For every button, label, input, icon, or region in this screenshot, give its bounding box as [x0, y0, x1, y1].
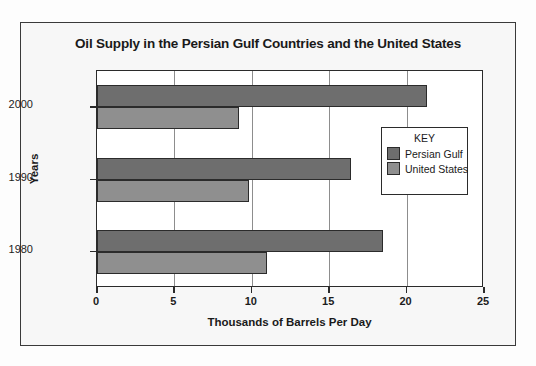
legend-swatch-icon-persian-gulf [387, 147, 400, 160]
y-axis-title: Years [28, 129, 40, 209]
x-tick-mark [96, 287, 98, 293]
x-axis-title: Thousands of Barrels Per Day [96, 316, 483, 328]
chart-legend: KEY Persian Gulf United States [381, 127, 468, 195]
y-tick-label-2000: 2000 [9, 98, 33, 110]
bar-1990-united-states [97, 180, 249, 202]
x-tick-mark [483, 287, 485, 293]
y-tick-mark [90, 179, 96, 181]
x-tick-mark [173, 287, 175, 293]
chart-page: Oil Supply in the Persian Gulf Countries… [0, 0, 536, 366]
x-tick-mark [328, 287, 330, 293]
y-tick-mark [90, 251, 96, 253]
x-tick-mark [406, 287, 408, 293]
y-tick-label-1980: 1980 [9, 243, 33, 255]
x-tick-label-25: 25 [477, 295, 489, 307]
legend-item-persian-gulf: Persian Gulf [387, 147, 467, 160]
legend-label-united-states: United States [405, 163, 468, 175]
y-tick-mark [90, 106, 96, 108]
x-tick-label-5: 5 [170, 295, 176, 307]
legend-label-persian-gulf: Persian Gulf [405, 148, 463, 160]
bar-2000-united-states [97, 107, 239, 129]
legend-item-united-states: United States [387, 162, 467, 175]
bar-1990-persian-gulf [97, 158, 351, 180]
legend-title: KEY [382, 132, 467, 144]
x-tick-label-0: 0 [93, 295, 99, 307]
x-tick-mark [251, 287, 253, 293]
bar-1980-united-states [97, 252, 267, 274]
y-tick-label-1990: 1990 [9, 171, 33, 183]
bar-2000-persian-gulf [97, 85, 427, 107]
bar-1980-persian-gulf [97, 230, 383, 252]
x-tick-label-10: 10 [245, 295, 257, 307]
legend-swatch-icon-united-states [387, 162, 400, 175]
x-tick-label-15: 15 [322, 295, 334, 307]
x-tick-label-20: 20 [399, 295, 411, 307]
chart-title: Oil Supply in the Persian Gulf Countries… [20, 36, 516, 51]
